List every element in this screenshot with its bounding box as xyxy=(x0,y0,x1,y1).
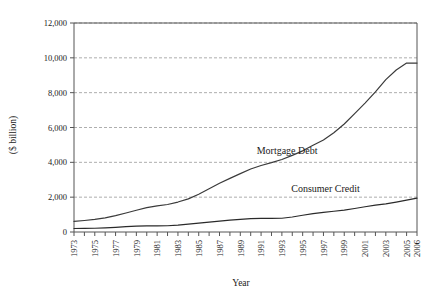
x-tick-label: 1977 xyxy=(111,240,121,257)
y-tick-label: 4,000 xyxy=(48,157,67,167)
series-annotation: Consumer Credit xyxy=(291,183,360,194)
x-tick-label: 1979 xyxy=(132,240,142,257)
x-tick-label: 1983 xyxy=(173,240,183,257)
y-axis-ticks xyxy=(70,23,74,232)
x-axis-tick-labels: 1973197519771979198119831985198719891991… xyxy=(69,240,422,257)
y-tick-label: 10,000 xyxy=(44,53,67,63)
y-tick-label: 6,000 xyxy=(48,123,67,133)
x-tick-label: 1987 xyxy=(215,240,225,257)
series-annotations: Mortgage DebtConsumer Credit xyxy=(257,145,360,193)
x-tick-label: 1993 xyxy=(277,240,287,257)
series-annotation: Mortgage Debt xyxy=(257,145,318,156)
y-tick-label: 12,000 xyxy=(44,18,67,28)
x-tick-label: 2003 xyxy=(381,240,391,257)
x-axis-title: Year xyxy=(232,278,250,288)
x-tick-label: 1999 xyxy=(339,240,349,257)
line-chart-svg: 02,0004,0006,0008,00010,00012,000 197319… xyxy=(0,0,440,295)
x-tick-label: 2005 xyxy=(402,240,412,257)
y-axis-title: ($ billion) xyxy=(8,116,19,154)
chart-container: 02,0004,0006,0008,00010,00012,000 197319… xyxy=(0,0,440,295)
data-series xyxy=(74,63,417,228)
series-line xyxy=(74,63,417,221)
x-tick-label: 1997 xyxy=(319,240,329,257)
x-tick-label: 1973 xyxy=(69,240,79,257)
x-tick-label: 1975 xyxy=(90,240,100,257)
x-tick-label: 1981 xyxy=(152,240,162,257)
y-axis-tick-labels: 02,0004,0006,0008,00010,00012,000 xyxy=(44,18,67,237)
x-axis-ticks xyxy=(74,232,417,236)
x-tick-label: 1995 xyxy=(298,240,308,257)
x-tick-label: 1989 xyxy=(236,240,246,257)
x-tick-label: 1985 xyxy=(194,240,204,257)
y-tick-label: 8,000 xyxy=(48,88,67,98)
y-tick-label: 0 xyxy=(63,227,67,237)
x-tick-label: 2001 xyxy=(360,240,370,257)
x-tick-label: 1991 xyxy=(256,240,266,257)
gridlines xyxy=(74,23,417,232)
x-tick-label: 2006 xyxy=(412,240,422,257)
y-tick-label: 2,000 xyxy=(48,192,67,202)
